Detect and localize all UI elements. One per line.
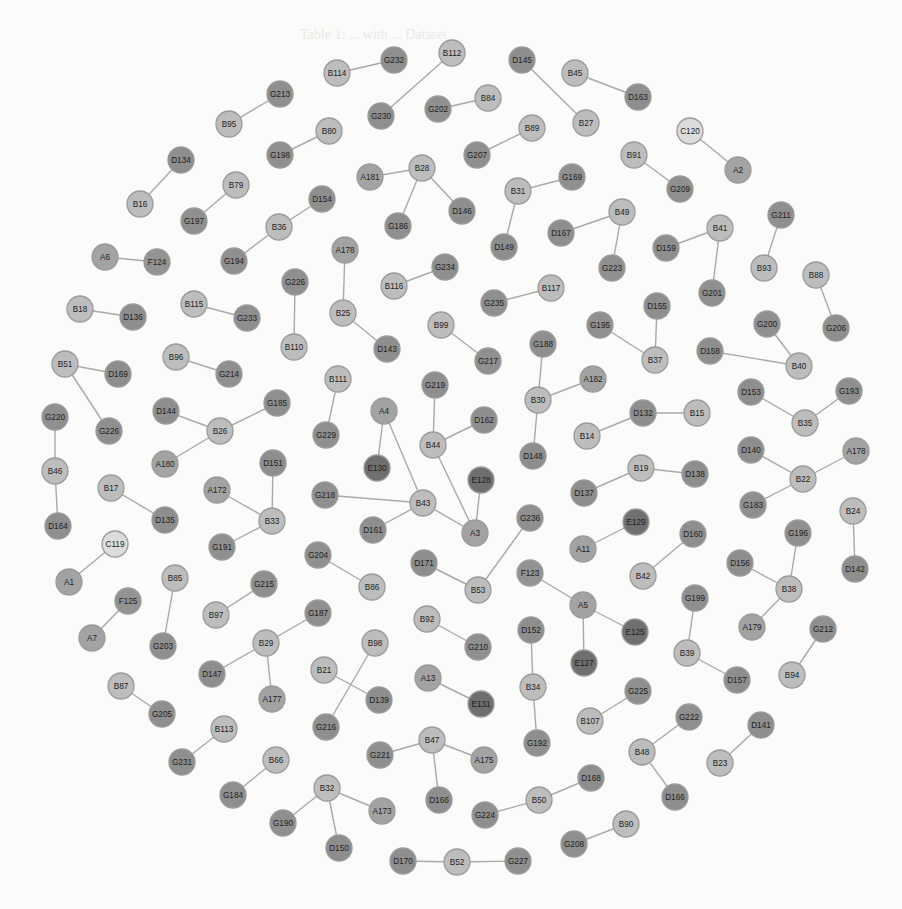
graph-node: A172 (204, 477, 230, 503)
graph-node: G201 (699, 280, 725, 306)
graph-node: B90 (613, 811, 639, 837)
graph-node: G231 (169, 749, 195, 775)
node-label: D158 (700, 347, 720, 356)
graph-node: G217 (475, 348, 501, 374)
node-label: A13 (421, 674, 436, 683)
graph-node: G225 (625, 678, 651, 704)
node-label: G213 (270, 90, 290, 99)
node-label: B34 (526, 683, 541, 692)
graph-node: B39 (674, 640, 700, 666)
graph-node: G209 (667, 176, 693, 202)
node-label: B48 (635, 748, 650, 757)
node-label: B27 (579, 119, 594, 128)
graph-node: D139 (366, 687, 392, 713)
node-label: G236 (520, 514, 540, 523)
node-label: B14 (580, 432, 595, 441)
graph-node: G203 (150, 633, 176, 659)
node-label: B32 (320, 784, 335, 793)
graph-node: G233 (234, 305, 260, 331)
graph-node: D146 (449, 198, 475, 224)
graph-node: B23 (707, 750, 733, 776)
node-label: G196 (788, 529, 808, 538)
graph-node: G236 (517, 505, 543, 531)
graph-node: A13 (415, 665, 441, 691)
graph-node: B34 (520, 674, 546, 700)
graph-node: G227 (505, 848, 531, 874)
node-label: B80 (322, 127, 337, 136)
graph-node: B40 (786, 353, 812, 379)
graph-node: G221 (367, 742, 393, 768)
graph-node: B79 (223, 172, 249, 198)
graph-node: D132 (630, 400, 656, 426)
node-label: G231 (172, 758, 192, 767)
graph-node: B48 (629, 739, 655, 765)
graph-node: G208 (561, 831, 587, 857)
graph-node: A1 (56, 569, 82, 595)
graph-node: G216 (313, 714, 339, 740)
node-label: B110 (285, 343, 304, 352)
node-label: G197 (184, 217, 204, 226)
node-label: B84 (481, 94, 496, 103)
graph-node: B88 (803, 262, 829, 288)
graph-node: A4 (371, 398, 397, 424)
graph-node: E125 (622, 619, 648, 645)
node-label: G218 (315, 491, 335, 500)
node-label: G199 (685, 594, 705, 603)
node-label: B21 (317, 666, 332, 675)
node-label: B24 (846, 507, 861, 516)
node-label: B99 (434, 321, 449, 330)
node-label: B46 (48, 467, 63, 476)
node-label: B53 (471, 586, 486, 595)
node-label: B85 (168, 574, 183, 583)
node-label: B19 (634, 464, 649, 473)
graph-node: B87 (108, 673, 134, 699)
node-label: A5 (578, 601, 588, 610)
node-label: B49 (615, 208, 630, 217)
node-label: D153 (741, 388, 761, 397)
graph-node: D150 (326, 835, 352, 861)
node-label: B18 (73, 305, 88, 314)
node-label: B111 (329, 375, 347, 384)
node-label: D170 (393, 857, 413, 866)
node-label: G223 (602, 264, 622, 273)
node-label: B116 (385, 282, 404, 291)
graph-node: B98 (362, 630, 388, 656)
node-label: G226 (99, 427, 119, 436)
graph-node: F124 (144, 249, 170, 275)
graph-node: D161 (360, 517, 386, 543)
graph-node: D167 (548, 220, 574, 246)
node-label: B42 (636, 572, 651, 581)
graph-node: B26 (207, 418, 233, 444)
node-label: D167 (551, 229, 571, 238)
graph-node: G194 (221, 248, 247, 274)
node-label: D169 (108, 370, 128, 379)
node-label: D140 (741, 446, 761, 455)
node-label: D151 (263, 459, 283, 468)
node-label: B92 (420, 615, 435, 624)
graph-node: B53 (465, 577, 491, 603)
node-label: F125 (119, 597, 138, 606)
node-label: B29 (259, 639, 274, 648)
node-label: B38 (782, 585, 797, 594)
node-label: G192 (527, 739, 547, 748)
graph-node: D143 (374, 336, 400, 362)
graph-node: G199 (682, 585, 708, 611)
node-label: G234 (435, 263, 455, 272)
graph-node: B32 (314, 775, 340, 801)
node-label: G195 (590, 321, 610, 330)
graph-node: B41 (707, 215, 733, 241)
graph-node: B31 (505, 178, 531, 204)
graph-node: D140 (738, 437, 764, 463)
node-label: A7 (87, 634, 97, 643)
node-label: D164 (48, 522, 68, 531)
node-label: D145 (512, 56, 532, 65)
node-label: G210 (468, 643, 488, 652)
node-label: B51 (58, 360, 73, 369)
graph-node: C120 (677, 118, 703, 144)
node-label: G216 (316, 723, 336, 732)
graph-node: D142 (842, 556, 868, 582)
node-label: G198 (270, 151, 290, 160)
node-label: B87 (114, 682, 129, 691)
node-label: D155 (647, 302, 667, 311)
graph-node: B97 (203, 602, 229, 628)
